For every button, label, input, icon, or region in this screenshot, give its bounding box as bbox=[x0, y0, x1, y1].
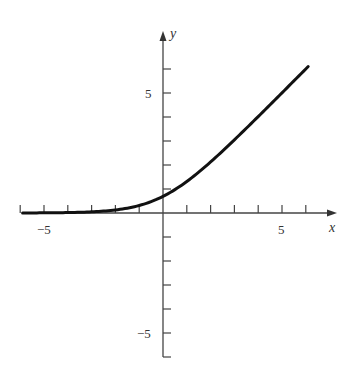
y-tick-label-neg5: −5 bbox=[137, 326, 151, 341]
y-axis-label: y bbox=[168, 26, 177, 41]
axes bbox=[22, 38, 330, 357]
softplus-curve bbox=[23, 67, 309, 213]
x-axis-arrow-icon bbox=[327, 210, 337, 217]
x-tick-label-5: 5 bbox=[278, 222, 285, 237]
y-tick-label-5: 5 bbox=[145, 86, 152, 101]
x-axis-label: x bbox=[328, 220, 336, 235]
y-axis-arrow-icon bbox=[160, 31, 167, 41]
softplus-chart: −5 5 5 −5 x y bbox=[0, 0, 351, 380]
x-tick-label-neg5: −5 bbox=[37, 222, 51, 237]
